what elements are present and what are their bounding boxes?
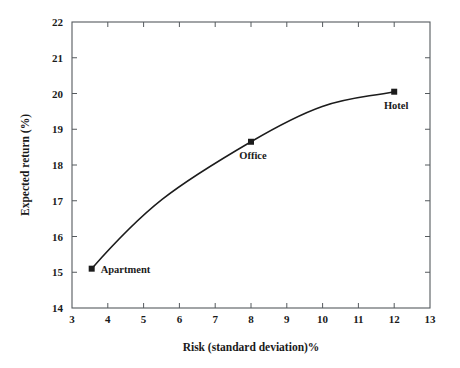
y-axis-tick-labels: 141516171819202122 [52,16,64,314]
x-tick-label: 8 [248,313,254,325]
x-tick-label: 12 [389,313,401,325]
x-tick-label: 4 [105,313,111,325]
data-point-marker [248,139,254,145]
x-tick-label: 10 [317,313,329,325]
y-tick-label: 21 [52,52,63,64]
data-point-label-apartment: Apartment [101,264,151,275]
data-point-marker [89,266,95,272]
data-point-label-hotel: Hotel [384,100,409,111]
y-tick-label: 16 [52,231,64,243]
x-tick-label: 13 [425,313,437,325]
x-tick-label: 6 [177,313,183,325]
x-tick-label: 7 [212,313,218,325]
data-point-label-office: Office [239,150,267,161]
y-tick-label: 17 [52,195,64,207]
y-axis-title: Expected return (%) [19,114,32,216]
y-tick-label: 20 [52,88,64,100]
x-tick-label: 9 [284,313,290,325]
data-point-marker [391,89,397,95]
y-tick-label: 19 [52,123,64,135]
x-axis-title: Risk (standard deviation)% [183,341,320,354]
y-tick-label: 22 [52,16,64,28]
risk-return-scatter-chart: 141516171819202122 345678910111213 Apart… [0,0,460,368]
x-tick-label: 11 [353,313,363,325]
y-tick-label: 14 [52,302,64,314]
chart-figure: 141516171819202122 345678910111213 Apart… [0,0,460,368]
x-tick-label: 3 [69,313,75,325]
y-tick-label: 15 [52,266,64,278]
x-tick-label: 5 [141,313,147,325]
y-tick-label: 18 [52,159,64,171]
